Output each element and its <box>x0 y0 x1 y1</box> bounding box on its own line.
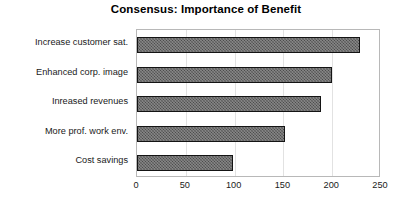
bar-row <box>137 60 379 90</box>
category-label: Cost savings <box>0 155 128 165</box>
bar[interactable] <box>137 126 285 142</box>
value-tick-label: 100 <box>226 180 241 190</box>
bar[interactable] <box>137 96 321 112</box>
bar-row <box>137 30 379 60</box>
value-axis-labels: 050100150200250 <box>136 180 380 196</box>
bars-layer <box>137 30 379 176</box>
value-tick-label: 50 <box>180 180 190 190</box>
plot-area <box>136 29 380 177</box>
value-tick-label: 200 <box>324 180 339 190</box>
bar[interactable] <box>137 37 360 53</box>
bar-row <box>137 148 379 178</box>
bar[interactable] <box>137 67 332 83</box>
bar-chart-figure: Consensus: Importance of Benefit Increas… <box>0 0 412 204</box>
value-tick-label: 250 <box>372 180 387 190</box>
category-label: More prof. work env. <box>0 126 128 136</box>
bar[interactable] <box>137 155 233 171</box>
chart-title: Consensus: Importance of Benefit <box>0 3 412 15</box>
bar-row <box>137 119 379 149</box>
category-label: Enhanced corp. image <box>0 67 128 77</box>
category-label: Inreased revenues <box>0 96 128 106</box>
value-tick-label: 0 <box>133 180 138 190</box>
category-axis-labels: Increase customer sat. Enhanced corp. im… <box>0 29 132 177</box>
category-label: Increase customer sat. <box>0 37 128 47</box>
value-tick-label: 150 <box>275 180 290 190</box>
bar-row <box>137 89 379 119</box>
